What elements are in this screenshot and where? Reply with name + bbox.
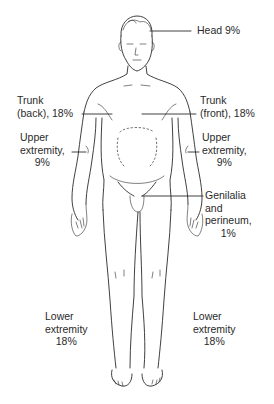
label-genitalia: Genilalia and perineum, 1% [205,189,252,239]
label-trunk-back-line1: Trunk [17,94,73,107]
label-genitalia-line1: Genilalia [205,189,252,202]
label-lower-right-line3: 18% [193,335,236,348]
label-genitalia-line2: and [205,202,252,215]
label-upper-extremity-left: Upper extremity, 9% [20,131,65,169]
label-genitalia-line3: perineum, [205,214,252,227]
label-trunk-front-line1: Trunk [200,94,255,107]
label-head: Head 9% [197,24,240,37]
label-head-line: Head 9% [197,24,240,37]
label-upper-right-line1: Upper [202,131,247,144]
label-upper-left-line2: extremity, [20,144,65,157]
label-genitalia-line4: 1% [205,227,252,240]
label-lower-right-line2: extremity [193,323,236,336]
label-trunk-back: Trunk (back), 18% [17,94,73,119]
label-lower-left-line2: extremity [45,323,88,336]
label-trunk-front-line2: (front), 18% [200,107,255,120]
label-lower-left-line3: 18% [45,335,88,348]
label-upper-right-line2: extremity, [202,144,247,157]
head-drawing [119,16,155,71]
label-lower-left-line1: Lower [45,310,88,323]
legs-drawing [103,210,171,386]
label-upper-extremity-right: Upper extremity, 9% [202,131,247,169]
arms-drawing [71,112,203,236]
label-upper-right-line3: 9% [202,156,247,169]
label-lower-extremity-right: Lower extremity 18% [193,310,236,348]
torso-drawing [84,66,190,212]
label-upper-left-line1: Upper [20,131,65,144]
label-lower-right-line1: Lower [193,310,236,323]
label-trunk-back-line2: (back), 18% [17,107,73,120]
label-upper-left-line3: 9% [20,156,65,169]
label-trunk-front: Trunk (front), 18% [200,94,255,119]
label-lower-extremity-left: Lower extremity 18% [45,310,88,348]
